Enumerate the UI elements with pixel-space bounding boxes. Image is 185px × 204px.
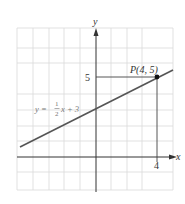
guide-lines [96, 77, 157, 162]
x-tick-label-4: 4 [154, 160, 159, 171]
y-axis-arrow-icon [94, 28, 99, 36]
point-label: P(4, 5) [129, 64, 158, 76]
y-tick-label-5: 5 [85, 72, 90, 83]
equation-denominator: 2 [55, 110, 59, 118]
equation-label: y = 1 2 x + 3 [34, 100, 79, 118]
equation-numerator: 1 [55, 100, 59, 108]
equation-lhs: y = [34, 104, 47, 114]
x-axis-label: x [175, 151, 181, 162]
point-p [155, 75, 160, 80]
coordinate-plane: y x 5 4 P(4, 5) y = 1 2 x + 3 [0, 0, 185, 204]
y-axis-label: y [92, 16, 98, 27]
equation-rhs: x + 3 [60, 104, 79, 114]
